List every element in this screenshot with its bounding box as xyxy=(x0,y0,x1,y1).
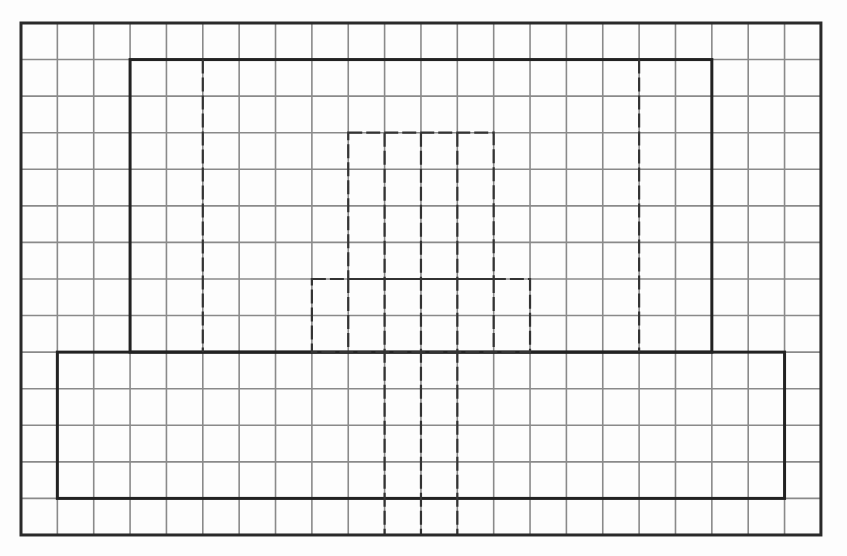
grid-diagram xyxy=(0,0,847,556)
